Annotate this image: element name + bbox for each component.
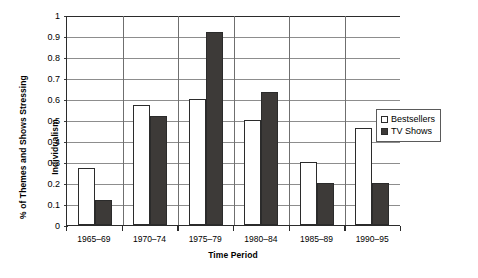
x-axis-tick-label: 1970–74 (122, 234, 178, 244)
bar (300, 162, 317, 225)
bar (355, 128, 372, 225)
bar-group (67, 16, 123, 225)
bar (133, 105, 150, 225)
legend-label-bestsellers: Bestsellers (391, 113, 435, 125)
bar-chart: % of Themes and Shows Stressing Individu… (0, 0, 478, 278)
legend-label-tvshows: TV Shows (391, 125, 432, 137)
bar (244, 120, 261, 225)
y-axis-tick-label: 0.4 (47, 138, 60, 147)
bar (189, 99, 206, 225)
x-axis-tick-mark (233, 226, 234, 231)
bar (372, 183, 389, 225)
y-axis-tick-label: 0.5 (47, 117, 60, 126)
bar (150, 116, 167, 225)
x-axis-tick-label: 1990–95 (344, 234, 400, 244)
x-axis-tick-label: 1985–89 (289, 234, 345, 244)
x-axis-tick-mark (66, 226, 67, 231)
x-axis-tick-label: 1965–69 (66, 234, 122, 244)
y-axis-tick-label: 0 (55, 222, 60, 231)
x-axis-tick-marks (66, 226, 400, 232)
bar-group (289, 16, 345, 225)
bar (95, 200, 112, 225)
bar-group (123, 16, 179, 225)
x-axis-tick-mark (289, 226, 290, 231)
y-axis-tick-label: 0.9 (47, 33, 60, 42)
bar (206, 32, 223, 225)
y-axis-title-line1: % of Themes and Shows Stressing (18, 42, 29, 252)
bar-group (178, 16, 234, 225)
bar-group (234, 16, 290, 225)
x-axis-tick-mark (122, 226, 123, 231)
y-axis-tick-labels: 00.10.20.30.40.50.60.70.80.91 (38, 16, 64, 226)
y-axis-tick-label: 0.7 (47, 75, 60, 84)
y-axis-tick-label: 1 (55, 12, 60, 21)
x-axis-tick-mark (344, 226, 345, 231)
bar (78, 168, 95, 225)
x-axis-tick-mark (400, 226, 401, 231)
legend: Bestsellers TV Shows (376, 109, 441, 142)
x-axis-tick-mark (177, 226, 178, 231)
y-axis-tick-label: 0.2 (47, 180, 60, 189)
legend-item-bestsellers: Bestsellers (381, 113, 435, 125)
bar (261, 92, 278, 225)
y-axis-tick-label: 0.8 (47, 54, 60, 63)
bar-groups (67, 16, 400, 225)
bar (317, 183, 334, 225)
x-axis-title: Time Period (66, 250, 400, 260)
filled-square-icon (381, 128, 388, 135)
y-axis-tick-label: 0.6 (47, 96, 60, 105)
legend-item-tvshows: TV Shows (381, 125, 435, 137)
hollow-square-icon (381, 116, 388, 123)
y-axis-tick-label: 0.3 (47, 159, 60, 168)
y-axis-tick-label: 0.1 (47, 201, 60, 210)
plot-area (66, 16, 400, 226)
x-axis-tick-labels: 1965–691970–741975–791980–841985–891990–… (66, 234, 400, 244)
x-axis-tick-label: 1975–79 (177, 234, 233, 244)
x-axis-tick-label: 1980–84 (233, 234, 289, 244)
